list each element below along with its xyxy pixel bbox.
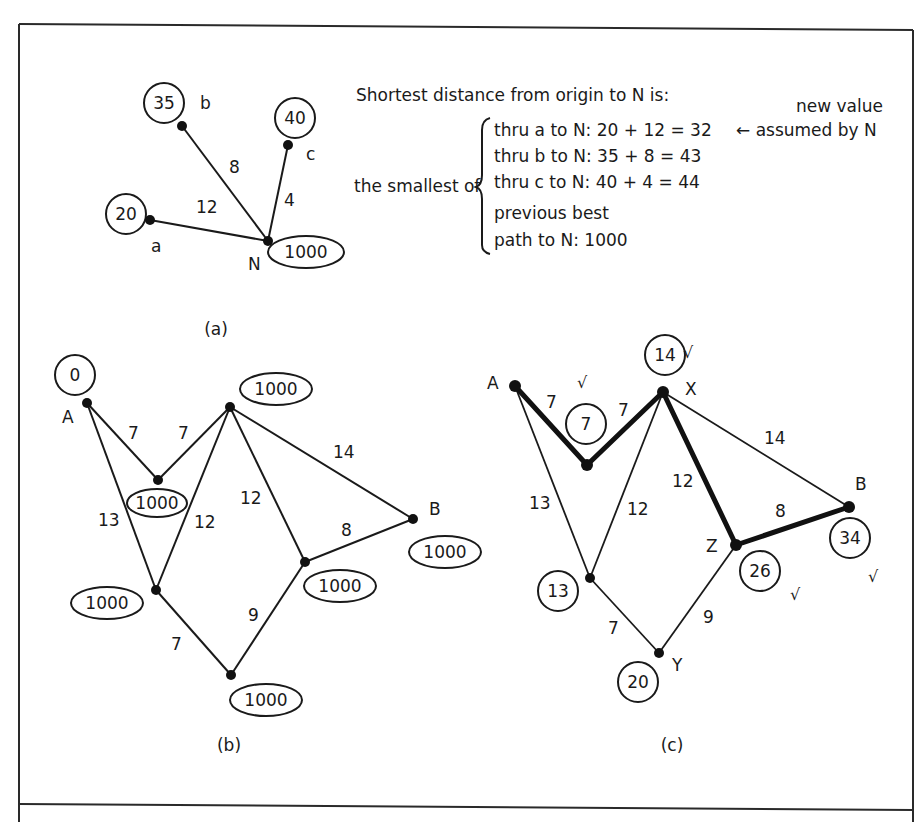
check-mark-icon: √: [868, 567, 879, 586]
edge-A-Q-weight: 13: [529, 493, 551, 513]
node-B-label: B: [855, 474, 867, 494]
node-b-label: b: [200, 93, 211, 113]
node-Z-value: 26: [749, 561, 771, 581]
node-a-dot: [145, 215, 155, 225]
node-P-dot: [153, 475, 163, 485]
node-A-label: A: [62, 407, 74, 427]
edge-a-N-weight: 12: [196, 197, 218, 217]
node-B-value: 1000: [423, 542, 466, 562]
caption-a: (a): [204, 319, 228, 339]
node-X-value: 1000: [254, 379, 297, 399]
node-Q-dot: [585, 573, 595, 583]
edge-X-B-weight: 14: [333, 442, 355, 462]
node-P-value: 1000: [135, 493, 178, 513]
node-Y-dot: [654, 648, 664, 658]
option-thru-a: thru a to N: 20 + 12 = 32: [494, 120, 712, 140]
node-Y-dot: [226, 670, 236, 680]
node-Y-value: 20: [627, 672, 649, 692]
edge-A-Q: [515, 386, 590, 578]
edge-Q-Y-weight: 7: [608, 618, 619, 638]
edge-Q-Y: [156, 590, 231, 675]
node-Z-dot: [300, 557, 310, 567]
panel-b: 0 1000 1000 1000 1000 1000 1000 A B 7 7 …: [55, 355, 481, 755]
edge-A-P: [87, 403, 158, 480]
node-P-dot: [581, 459, 593, 471]
edge-Y-Z-weight: 9: [248, 605, 259, 625]
panel-a: 35 40 20 1000 b c a N 8 12 4 Shortest di…: [106, 83, 883, 339]
edge-P-X-weight: 7: [178, 423, 189, 443]
edge-Z-B: [305, 519, 413, 562]
node-Q-value: 13: [547, 581, 569, 601]
edge-Y-Z: [659, 545, 736, 653]
note-new-value: new value: [796, 96, 883, 116]
edge-P-X-weight: 7: [618, 400, 629, 420]
node-N-value: 1000: [284, 242, 327, 262]
edge-Y-Z: [231, 562, 305, 675]
explanation-heading: Shortest distance from origin to N is:: [356, 85, 669, 105]
node-Y-label: Y: [671, 655, 683, 675]
edge-b-N-weight: 8: [229, 157, 240, 177]
node-c-dot: [283, 140, 293, 150]
edge-Z-B-weight: 8: [775, 501, 786, 521]
node-Z-label: Z: [706, 536, 718, 556]
node-Q-value: 1000: [85, 593, 128, 613]
edge-b-N: [182, 126, 268, 241]
node-A-dot: [82, 398, 92, 408]
figure-frame: [19, 24, 913, 822]
node-c-label: c: [306, 144, 315, 164]
edge-a-N: [150, 220, 268, 241]
shortest-path: [515, 386, 849, 545]
check-mark-icon: √: [577, 373, 588, 392]
node-b-value: 35: [153, 93, 175, 113]
node-b-dot: [177, 121, 187, 131]
node-B-dot: [408, 514, 418, 524]
panel-a-edges: [150, 126, 288, 241]
edge-X-Q-weight: 12: [194, 512, 216, 532]
node-P-value: 7: [581, 414, 592, 434]
node-Q-dot: [151, 585, 161, 595]
dijkstra-figure: 35 40 20 1000 b c a N 8 12 4 Shortest di…: [0, 0, 919, 822]
caption-b: (b): [217, 735, 241, 755]
edge-Y-Z-weight: 9: [703, 607, 714, 627]
node-B-label: B: [429, 499, 441, 519]
panel-c: 14 7 34 26 13 20 A X B Z Y 7 7 13 12 12 …: [487, 335, 879, 755]
option-previous-best-1: previous best: [494, 203, 609, 223]
edge-A-P-weight: 7: [128, 423, 139, 443]
node-Y-value: 1000: [244, 690, 287, 710]
edge-X-Z-weight: 12: [240, 488, 262, 508]
option-thru-c: thru c to N: 40 + 4 = 44: [494, 172, 700, 192]
node-A-value: 0: [70, 365, 81, 385]
node-a-value: 20: [115, 204, 137, 224]
option-thru-b: thru b to N: 35 + 8 = 43: [494, 146, 701, 166]
edge-Q-Y-weight: 7: [171, 634, 182, 654]
node-A-label: A: [487, 373, 499, 393]
node-A-dot: [509, 380, 521, 392]
explanation-lead: the smallest of: [354, 176, 481, 196]
shortest-path-line: [515, 386, 849, 545]
edge-X-B-weight: 14: [764, 428, 786, 448]
edge-X-Q-weight: 12: [627, 499, 649, 519]
node-a-label: a: [151, 236, 161, 256]
node-N-dot: [263, 236, 273, 246]
edge-X-Z-weight: 12: [672, 471, 694, 491]
node-X-dot: [657, 386, 669, 398]
node-Z-dot: [730, 539, 742, 551]
edge-A-Q-weight: 13: [98, 510, 120, 530]
edge-P-X: [158, 407, 230, 480]
edge-c-N-weight: 4: [284, 190, 295, 210]
node-c-value: 40: [284, 108, 306, 128]
caption-c: (c): [661, 735, 684, 755]
option-previous-best-2: path to N: 1000: [494, 230, 628, 250]
node-B-value: 34: [839, 528, 861, 548]
node-B-dot: [843, 501, 855, 513]
check-mark-icon: √: [790, 585, 801, 604]
node-X-value: 14: [654, 345, 676, 365]
node-X-label: X: [685, 379, 697, 399]
edge-A-P-weight: 7: [546, 392, 557, 412]
panel-b-edges: [87, 403, 413, 675]
curly-brace: [476, 118, 490, 254]
check-mark-icon: √: [683, 343, 694, 362]
note-assumed-by-N: ← assumed by N: [736, 120, 877, 140]
node-N-label: N: [248, 254, 261, 274]
node-X-dot: [225, 402, 235, 412]
